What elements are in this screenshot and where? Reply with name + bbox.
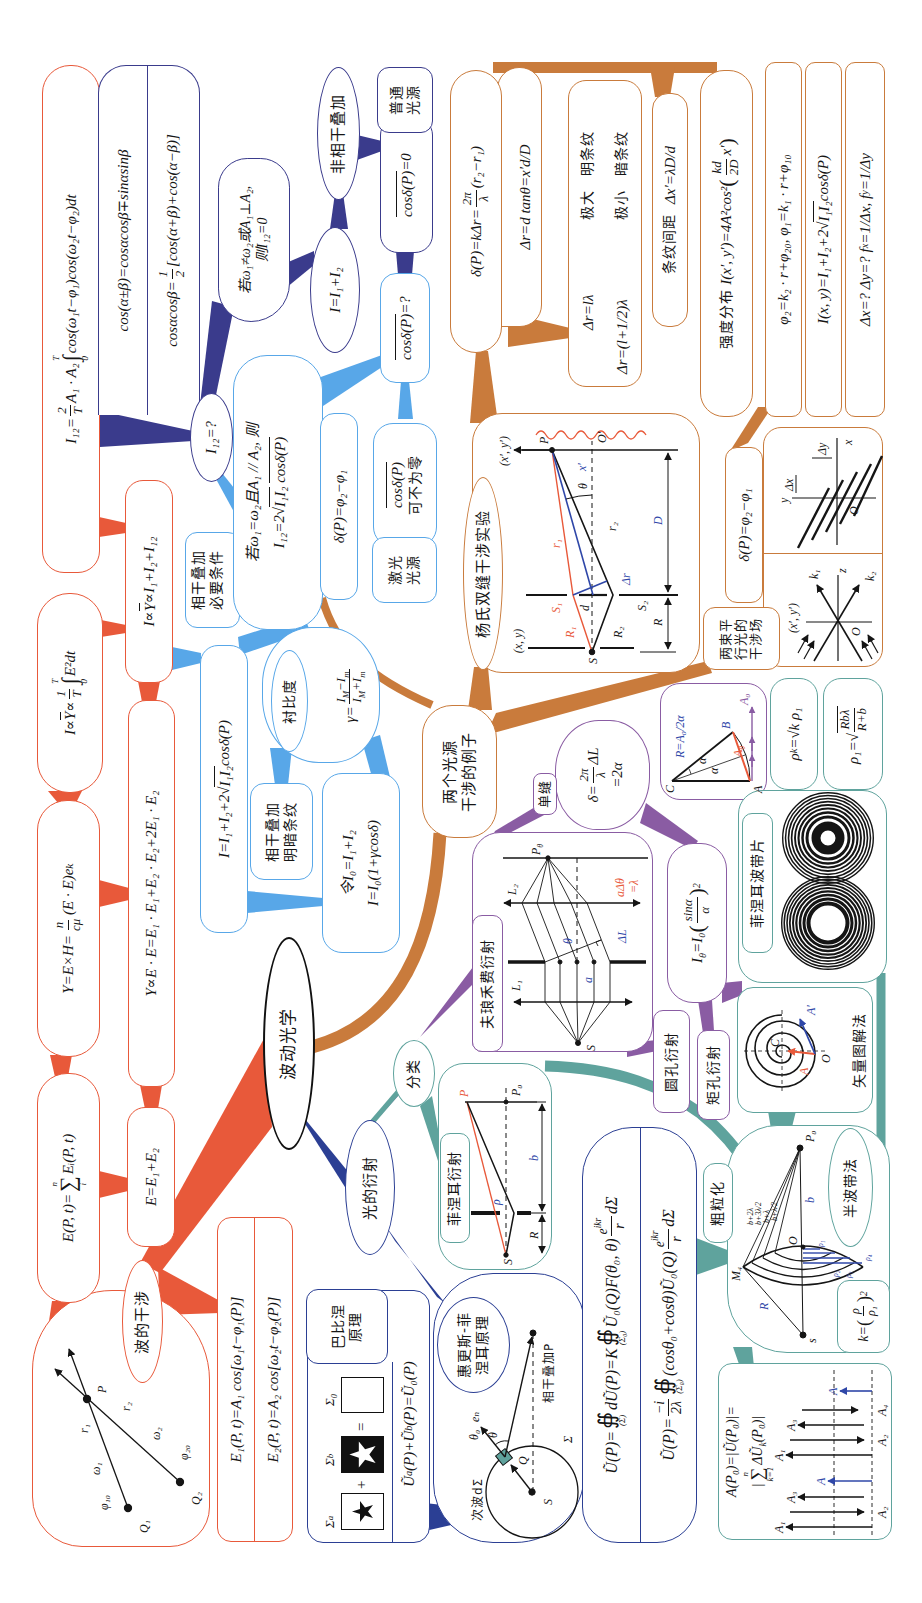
integral-lower: 0 [81, 356, 90, 361]
aperture-a-square [341, 1493, 384, 1530]
coarse-graining-box: 粗粒化 [703, 1163, 733, 1243]
integral-symbol: ∯ [654, 1378, 675, 1395]
huygens-label-line-1: 惠更斯-菲 [456, 1312, 474, 1378]
plane-phase-diff-box: δ(P)=φ₂−φ₁ [725, 447, 763, 603]
integral-symbol: ∫ [61, 355, 82, 361]
integral-symbol: ∯ [597, 1412, 618, 1429]
classification-node: 分类 [393, 1040, 435, 1107]
fraction-numerator: ρ [849, 1306, 864, 1316]
babinet-divider [392, 1362, 393, 1542]
rectangular-aperture-box: 矩孔衍射 [697, 1030, 730, 1120]
huygens-label-node: 惠更斯-菲 涅耳原理 [437, 1297, 510, 1393]
k1-body: Ũ₀(Q)F(θ₀, θ) [602, 1238, 622, 1327]
laser-source-line-1: 激光 [387, 555, 405, 585]
fraction-numerator: sinα [682, 897, 698, 923]
coarse-graining-label: 粗粒化 [709, 1181, 727, 1226]
plane-figures-box [763, 427, 883, 667]
fraction-denominator: r [669, 1234, 684, 1243]
fraction-numerator: 2π [578, 767, 594, 784]
cross-term-amplitudes: A₁ · A₂ [62, 363, 81, 403]
sigma-b-label: Σb [322, 1454, 338, 1466]
plane-label-line-1: 两束平 [719, 618, 734, 660]
intensity-sum-box: I∝Y∝I₁+I₂+I₁₂ [125, 480, 173, 683]
total-intensity-radicand: I₁I₂ [214, 766, 235, 786]
fraction-denominator: 2 [173, 269, 188, 279]
kirchhoff-formula-1: Ũ(P)= ∯(Σ) dŨ(P)=K ∯(Σ₀) Ũ₀(Q)F(θ₀, θ) e… [583, 1128, 641, 1542]
amplitude-box: A(P₀)=|Ũ(P₀)|= | n∑k=1 ΔŨk(P₀)| [718, 1363, 892, 1540]
total-intensity-formula: I=I₁+I₂+2√I₁I₂ cosδ(P) [214, 720, 235, 858]
wave-interference-label: 波的干涉 [133, 1290, 152, 1354]
young-intensity-box: 强度分布 I(x′, y′)=4A²cos² ( kd2D x′ ) [700, 70, 753, 417]
fraunhofer-label-box: 夫琅禾费衍射 [472, 915, 503, 1052]
root-node: 波动光学 [263, 937, 315, 1150]
field-sum-rhs: Eᵢ(P, t) [59, 1134, 78, 1174]
abs-bar: | [749, 1483, 767, 1487]
intensity-average-rhs: E²dt [61, 651, 80, 676]
fraction-numerator: 2 [56, 405, 72, 415]
plane-spacing-formula: Δx=? Δy=? fx=1/Δx, fy=1/Δy [856, 153, 875, 326]
trig-identities-box: cos(α±β)=cosαcosβ∓sinαsinβ cosαcosβ= 12 … [98, 65, 200, 415]
fraction-denominator: r [612, 1221, 627, 1230]
cross-term-question-node: I₁₂=? [190, 393, 233, 482]
fraction-numerator: kd [711, 159, 727, 175]
fraction-denominator: cμ [69, 917, 84, 933]
energy-density-formula: Y∝E · E=E₁ · E₁+E₂ · E₂+2E₁ · E₂ [142, 791, 161, 997]
intensity-average-box: I∝Y∝ 1T T∫0 E²dt [37, 593, 103, 793]
plane-label-line-2: 行光的 [734, 618, 749, 660]
integral-symbol: ∯ [597, 1329, 618, 1346]
cross-term-lhs: I₁₂= [62, 418, 81, 444]
plane-phases-box: φ₂=k₂ · r+φ₂₀, φ₁=k₁ · r+φ₁₀ [765, 62, 802, 417]
slit-phase-rhs: ΔL [584, 747, 603, 764]
first-zone-radius-formula: ρ₁=√ RbλR+b [837, 704, 869, 764]
young-intensity-fraction: kd2D [711, 158, 741, 178]
young-label: 杨氏双缝干涉实验 [474, 510, 493, 638]
bright-fringe: 明条纹 [579, 131, 597, 176]
avg-zero-formula: cosδ(P)=0 [396, 153, 417, 217]
fraction-denominator: 2λ [669, 1399, 684, 1416]
circular-aperture-label: 圆孔衍射 [663, 1032, 681, 1092]
integral-operator: T∫0 [51, 678, 89, 684]
kirchhoff-formula-2: Ũ(P)= −i2λ ∯(Σ₀) (cosθ₀+cosθ)Ũ₀(Q) eikrr… [641, 1128, 696, 1542]
cross-term-fraction: 2T [56, 405, 86, 416]
fresnel-label: 菲涅耳衍射 [446, 1151, 464, 1226]
coherent-label-box: 相干叠加 必要条件 [185, 532, 240, 628]
cross-term-question: I₁₂=? [202, 421, 221, 454]
ordinary-source-box: 普通 光源 [377, 67, 433, 133]
surface-integral: ∯(Σ₀) [654, 1378, 683, 1395]
paren-right: ) [716, 138, 738, 145]
wave-equation-2: E₂(P, t)=A₂ cos[ω₂t−φ₂(P)] [255, 1218, 292, 1541]
circular-aperture-box: 圆孔衍射 [653, 1010, 690, 1113]
babinet-label-box: 巴比涅 原理 [306, 1289, 388, 1364]
total-intensity-pre: I=I₁+I₂+2√ [215, 787, 234, 859]
fraction-denominator: IM+Im [350, 670, 365, 705]
plane-label-box: 两束平 行光的 干涉场 [703, 607, 780, 670]
surface-integral-2: ∯(Σ₀) [597, 1329, 626, 1346]
coherent-cross-radicand: I₁I₂ [269, 487, 290, 507]
first-radius-fraction: RbλR+b [837, 706, 869, 733]
normalized-intensity-box: 令I₀=I₁+I₂ I=I₀(1+γcosδ) [322, 773, 400, 953]
paren-right: ) [686, 888, 708, 895]
dark-condition: Δr=(l+1/2)λ [613, 220, 632, 374]
wave-equations-box: E₁(P, t)=A₁ cos[ω₁t−φ₁(P)] E₂(P, t)=A₂ c… [217, 1217, 293, 1542]
young-label-node: 杨氏双缝干涉实验 [463, 477, 503, 670]
integral-domain: (Σ₀) [675, 1379, 684, 1393]
plane-intensity-radicand: I₁I₂ [813, 201, 834, 221]
fraction-numerator: 2π [461, 190, 477, 207]
sum-lower: i [79, 1183, 88, 1186]
fraction-denominator: T [70, 688, 85, 699]
incoherent-condition-line-2: 则I₁₂=0 [254, 218, 272, 263]
fringe-spacing-label: 条纹间距 [661, 214, 679, 274]
plane-figures-divider [764, 553, 882, 554]
wave-equation-1: E₁(P, t)=A₁ cos[ω₁t−φ₁(P)] [218, 1218, 255, 1541]
intensity-average-lhs: I∝Y∝ [61, 701, 80, 735]
first-zone-radius-box: ρ₁=√ RbλR+b [823, 678, 883, 790]
white-star-icon [341, 1436, 384, 1473]
integral-domain: (Σ) [618, 1415, 627, 1426]
fringe-spacing-formula: Δx′=λD/d [661, 146, 680, 204]
single-slit-label-box: 单缝 [533, 773, 557, 815]
ordinary-source-line-2: 光源 [405, 85, 423, 115]
first-radius-lhs: ρ₁=√ [844, 733, 863, 764]
k2-body: (cosθ₀+cosθ)Ũ₀(Q) [659, 1251, 679, 1376]
dark-fringe-row: Δr=(l+1/2)λ 极小 暗条纹 [605, 81, 639, 386]
poynting-rhs: (E · E)eₖ [59, 863, 78, 915]
